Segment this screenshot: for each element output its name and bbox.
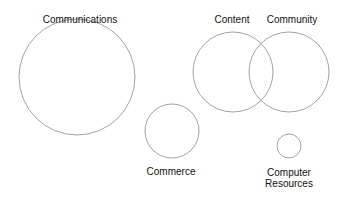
computer-resources-label: Computer Resources	[260, 167, 318, 189]
content-circle	[193, 32, 273, 112]
commerce-circle	[145, 104, 199, 158]
community-circle	[249, 32, 329, 112]
computer-resources-label-line2: Resources	[260, 178, 318, 189]
computer-resources-circle	[277, 134, 301, 158]
communications-circle	[19, 19, 135, 135]
communications-label: Communications	[40, 14, 120, 25]
content-label: Content	[210, 14, 254, 25]
commerce-label: Commerce	[143, 166, 199, 177]
community-label: Community	[263, 14, 321, 25]
computer-resources-label-line1: Computer	[260, 167, 318, 178]
